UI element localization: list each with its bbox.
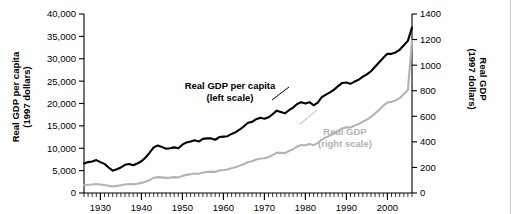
series-annotation-gdp-line2: (right scale) xyxy=(297,138,393,150)
x-tick-label-5: 1980 xyxy=(295,202,316,213)
left-axis-ticks xyxy=(79,14,84,193)
right-tick-label-2: 400 xyxy=(420,136,436,147)
left-tick-label-6: 30,000 xyxy=(47,53,76,64)
left-tick-label-3: 15,000 xyxy=(47,120,76,131)
left-axis-title: Real GDP per capita (1997 dollars) xyxy=(10,32,32,162)
x-tick-label-7: 2000 xyxy=(377,202,398,213)
right-tick-label-3: 600 xyxy=(420,111,436,122)
left-tick-label-8: 40,000 xyxy=(47,8,76,19)
chart-figure: 05,00010,00015,00020,00025,00030,00035,0… xyxy=(0,0,511,214)
chart-tick-labels: 05,00010,00015,00020,00025,00030,00035,0… xyxy=(47,8,441,213)
right-tick-label-0: 0 xyxy=(420,187,425,198)
series-annotation-capita-line2: (left scale) xyxy=(170,92,290,104)
right-tick-label-1: 200 xyxy=(420,162,436,173)
chart-plot-area: 05,00010,00015,00020,00025,00030,00035,0… xyxy=(0,0,511,214)
x-axis-minor-ticks xyxy=(84,193,412,197)
series-annotation-capita-line1: Real GDP per capita xyxy=(170,80,290,92)
right-tick-label-7: 1400 xyxy=(420,8,441,19)
right-axis-title: Real GDP (1997 dollars) xyxy=(467,14,489,144)
series-annotation-gdp-line1: Real GDP xyxy=(297,126,393,138)
left-tick-label-5: 25,000 xyxy=(47,76,76,87)
left-tick-label-4: 20,000 xyxy=(47,98,76,109)
left-axis-title-line2: (1997 dollars) xyxy=(21,32,32,162)
x-tick-label-2: 1950 xyxy=(172,202,193,213)
left-tick-label-2: 10,000 xyxy=(47,143,76,154)
x-tick-label-6: 1990 xyxy=(336,202,357,213)
left-tick-label-1: 5,000 xyxy=(52,165,76,176)
series-annotation-real-gdp: Real GDP (right scale) xyxy=(297,126,393,149)
x-tick-label-3: 1960 xyxy=(213,202,234,213)
right-tick-label-6: 1200 xyxy=(420,34,441,45)
left-tick-label-7: 35,000 xyxy=(47,31,76,42)
x-tick-label-0: 1930 xyxy=(90,202,111,213)
left-axis-title-line1: Real GDP per capita xyxy=(10,32,21,162)
series-annotation-real-gdp-per-capita: Real GDP per capita (left scale) xyxy=(170,80,290,103)
right-tick-label-4: 800 xyxy=(420,85,436,96)
right-axis-title-line1: Real GDP xyxy=(478,14,489,144)
x-tick-label-4: 1970 xyxy=(254,202,275,213)
right-axis-title-line2: (1997 dollars) xyxy=(467,14,478,144)
chart-series xyxy=(84,27,412,186)
x-tick-label-1: 1940 xyxy=(131,202,152,213)
leader-line-gdp xyxy=(300,110,317,124)
left-tick-label-0: 0 xyxy=(71,187,76,198)
right-tick-label-5: 1000 xyxy=(420,60,441,71)
